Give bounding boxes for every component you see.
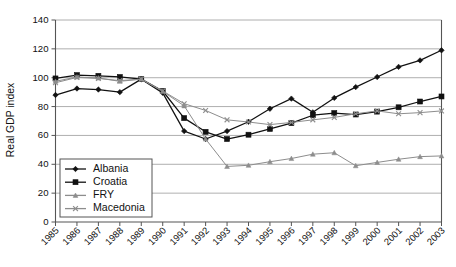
y-tick-label: 60 <box>38 129 49 140</box>
data-point-marker <box>182 116 187 121</box>
y-axis-ticks: 020406080100120140 <box>32 14 55 227</box>
data-point-marker <box>96 87 101 92</box>
x-tick-label: 1994 <box>231 225 254 248</box>
x-tick-label: 1986 <box>60 225 83 248</box>
x-tick-label: 1999 <box>339 225 362 248</box>
data-point-marker <box>417 58 422 63</box>
data-point-marker <box>310 113 315 118</box>
data-point-marker <box>353 84 358 89</box>
x-tick-label: 1991 <box>167 225 190 248</box>
y-tick-label: 120 <box>32 43 48 54</box>
x-tick-label: 1996 <box>274 225 297 248</box>
legend-label: Albania <box>93 162 128 174</box>
y-tick-label: 140 <box>32 14 48 25</box>
chart-canvas: 020406080100120140 198519861987198819891… <box>0 0 456 267</box>
y-axis-title: Real GDP index <box>5 82 16 157</box>
y-tick-label: 80 <box>38 101 49 112</box>
x-tick-label: 1988 <box>103 225 126 248</box>
data-point-marker <box>332 111 337 116</box>
data-point-marker <box>225 137 230 142</box>
x-tick-label: 2003 <box>424 225 447 248</box>
data-point-marker <box>246 132 251 137</box>
data-point-marker <box>203 108 208 113</box>
data-point-marker <box>117 89 122 94</box>
legend-label: Macedonia <box>93 201 145 213</box>
data-point-marker <box>74 86 79 91</box>
series-croatia <box>53 73 444 142</box>
y-tick-label: 0 <box>43 216 48 227</box>
data-point-marker <box>203 129 208 134</box>
x-axis-ticks: 1985198619871988198919901991199219931994… <box>38 222 447 247</box>
x-tick-label: 1990 <box>146 225 169 248</box>
x-tick-label: 1989 <box>124 225 147 248</box>
x-tick-label: 1987 <box>81 225 104 248</box>
data-point-marker <box>53 92 58 97</box>
data-point-marker <box>73 180 78 185</box>
y-tick-label: 20 <box>38 187 49 198</box>
x-tick-label: 1985 <box>38 225 61 248</box>
data-point-marker <box>439 48 444 53</box>
x-tick-label: 2002 <box>403 225 426 248</box>
series-albania <box>53 48 444 142</box>
x-tick-label: 1997 <box>296 225 319 248</box>
data-point-marker <box>418 99 423 104</box>
series-line <box>56 77 442 124</box>
y-tick-label: 40 <box>38 158 49 169</box>
data-point-marker <box>439 94 444 99</box>
x-tick-label: 2001 <box>381 225 404 248</box>
legend-label: FRY <box>93 188 114 200</box>
x-tick-label: 1992 <box>188 225 211 248</box>
series-line <box>56 75 442 139</box>
x-tick-label: 2000 <box>360 225 383 248</box>
legend-label: Croatia <box>93 175 127 187</box>
data-point-marker <box>181 128 186 133</box>
data-series-group <box>53 48 444 169</box>
data-point-marker <box>374 74 379 79</box>
data-point-marker <box>267 126 272 131</box>
chart-legend: AlbaniaCroatiaFRYMacedonia <box>60 159 152 217</box>
x-tick-label: 1995 <box>253 225 276 248</box>
x-tick-label: 1998 <box>317 225 340 248</box>
y-tick-label: 100 <box>32 72 48 83</box>
series-line <box>56 50 442 139</box>
data-point-marker <box>396 105 401 110</box>
x-tick-label: 1993 <box>210 225 233 248</box>
data-point-marker <box>224 128 229 133</box>
data-point-marker <box>396 64 401 69</box>
gdp-index-line-chart: 020406080100120140 198519861987198819891… <box>0 0 456 267</box>
